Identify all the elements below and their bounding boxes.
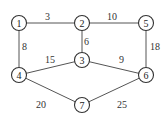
node-2: 2 — [75, 16, 90, 31]
weighted-graph-diagram: 3 10 8 6 18 15 9 20 25 1 2 5 3 4 — [0, 0, 165, 123]
node-label: 5 — [144, 18, 149, 29]
edge-7-6 — [82, 75, 146, 105]
node-label: 1 — [17, 18, 22, 29]
node-5: 5 — [139, 16, 154, 31]
weight-2-3: 6 — [84, 36, 89, 47]
weight-5-6: 18 — [150, 41, 160, 52]
node-4: 4 — [12, 68, 27, 83]
node-label: 6 — [144, 70, 149, 81]
weight-1-2: 3 — [45, 11, 50, 22]
edge-3-6 — [82, 60, 146, 75]
node-3: 3 — [75, 53, 90, 68]
edge-4-7 — [19, 75, 82, 105]
node-label: 2 — [80, 18, 85, 29]
node-6: 6 — [139, 68, 154, 83]
weight-4-3: 15 — [45, 54, 55, 65]
weight-4-7: 20 — [36, 99, 46, 110]
node-7: 7 — [75, 98, 90, 113]
node-1: 1 — [12, 16, 27, 31]
weight-1-4: 8 — [22, 41, 27, 52]
weight-3-6: 9 — [119, 54, 124, 65]
nodes: 1 2 5 3 4 6 7 — [12, 16, 154, 113]
weight-7-6: 25 — [117, 99, 127, 110]
node-label: 3 — [80, 55, 85, 66]
node-label: 4 — [17, 70, 22, 81]
node-label: 7 — [80, 100, 85, 111]
weight-2-5: 10 — [107, 11, 117, 22]
